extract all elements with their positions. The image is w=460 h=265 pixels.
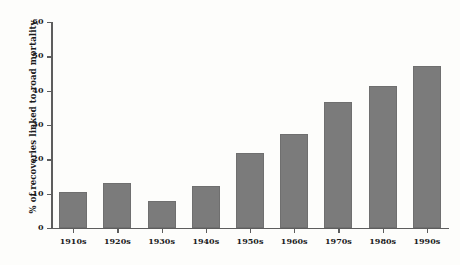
- y-tick-label: 40: [32, 85, 43, 95]
- x-tick: [383, 228, 384, 233]
- x-tick: [294, 228, 295, 233]
- x-axis-tick-labels: 1910s1920s1930s1940s1950s1960s1970s1980s…: [51, 236, 449, 252]
- x-tick: [117, 228, 118, 233]
- bar: [148, 201, 176, 228]
- y-tick-label: 20: [32, 153, 43, 163]
- x-tick-label: 1950s: [237, 236, 264, 246]
- x-tick: [338, 228, 339, 233]
- y-tick-label: 0: [38, 222, 44, 232]
- bar-chart: % of recoveries linked to road mortality…: [0, 0, 460, 265]
- plot-area: 0102030405060: [51, 22, 449, 228]
- x-tick-label: 1910s: [60, 236, 87, 246]
- y-tick-label: 60: [32, 16, 43, 26]
- x-tick-label: 1930s: [148, 236, 175, 246]
- bar: [236, 153, 264, 228]
- x-tick-label: 1990s: [413, 236, 440, 246]
- y-tick-label: 30: [32, 119, 43, 129]
- bar: [103, 183, 131, 228]
- x-tick-label: 1940s: [192, 236, 219, 246]
- x-tick: [250, 228, 251, 233]
- x-tick: [73, 228, 74, 233]
- bar-series: [51, 22, 449, 228]
- x-tick: [427, 228, 428, 233]
- x-tick: [206, 228, 207, 233]
- bar: [280, 134, 308, 228]
- y-tick-label: 50: [32, 50, 43, 60]
- bar: [413, 66, 441, 228]
- y-tick: 0: [47, 228, 52, 229]
- bar: [324, 102, 352, 228]
- x-tick: [162, 228, 163, 233]
- x-tick-label: 1970s: [325, 236, 352, 246]
- y-tick-label: 10: [32, 188, 43, 198]
- bar: [59, 192, 87, 228]
- x-tick-label: 1980s: [369, 236, 396, 246]
- bar: [192, 186, 220, 228]
- x-tick-label: 1960s: [281, 236, 308, 246]
- bar: [369, 86, 397, 228]
- x-tick-label: 1920s: [104, 236, 131, 246]
